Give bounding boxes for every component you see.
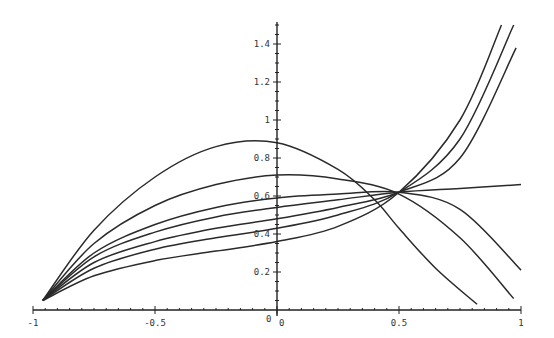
curve-5 — [43, 48, 516, 301]
y-tick-label: 1.4 — [254, 39, 270, 49]
y-tick-label: 1 — [265, 115, 270, 125]
y-tick-label: 0.8 — [254, 153, 270, 163]
y-tick-label: 0.6 — [254, 191, 270, 201]
y-tick-label: 1.2 — [254, 77, 270, 87]
curve-4 — [43, 185, 521, 301]
curve-7 — [43, 25, 502, 301]
x-tick-label: 0 — [279, 318, 284, 328]
line-chart: -1-0.500.510 0.20.40.60.811.21.4 — [0, 0, 554, 338]
x-tick-label: 1 — [518, 318, 523, 328]
y-tick-label: 0.4 — [254, 229, 270, 239]
curve-1 — [43, 141, 477, 304]
y-tick-label: 0.2 — [254, 267, 270, 277]
x-tick-label: 0.5 — [391, 318, 407, 328]
origin-label: 0 — [266, 314, 271, 324]
curves-group — [43, 25, 521, 304]
x-tick-label: -1 — [28, 318, 39, 328]
curve-6 — [43, 25, 514, 301]
x-tick-label: -0.5 — [144, 318, 166, 328]
